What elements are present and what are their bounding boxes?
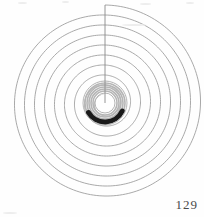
page-number: 129 bbox=[176, 198, 199, 211]
scan-streak-upper-right bbox=[122, 24, 146, 26]
scan-speck-top-right bbox=[186, 2, 194, 4]
scan-speck-top-mid-right bbox=[140, 3, 151, 5]
scanned-page: 129 bbox=[0, 0, 204, 217]
spiral-figure bbox=[0, 0, 204, 217]
scan-speck-top-mid-left bbox=[62, 1, 69, 3]
scan-speck-bottom-left bbox=[3, 212, 17, 214]
scan-speck-top-left bbox=[18, 2, 27, 4]
